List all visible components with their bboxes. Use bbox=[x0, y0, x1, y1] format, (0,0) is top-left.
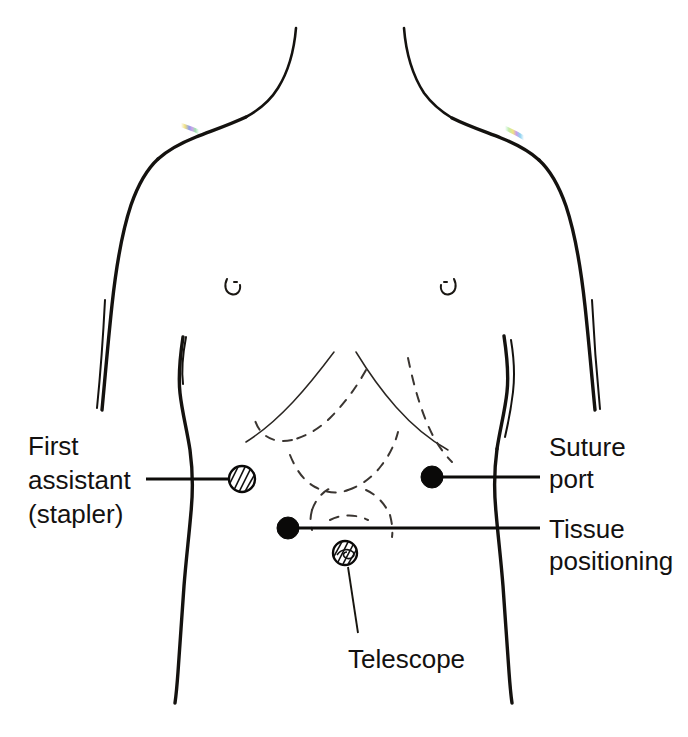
port-placement-diagram: First assistant (stapler) Suture port Ti… bbox=[0, 0, 688, 737]
viscera-outline-bottom-tail-right bbox=[390, 515, 392, 537]
right-flank-line bbox=[495, 449, 512, 703]
viscera-outline-upper-right bbox=[408, 358, 452, 462]
viscera-outline-upper-left bbox=[292, 370, 366, 440]
right-shoulder-line bbox=[452, 118, 539, 160]
label-telescope: Telescope bbox=[348, 644, 465, 674]
label-first-assistant-line3: (stapler) bbox=[28, 499, 123, 529]
label-tissue-positioning-line1: Tissue bbox=[549, 514, 625, 544]
port-marker-first-assistant[interactable] bbox=[228, 463, 258, 495]
viscera-outline-bottom-loop-right bbox=[366, 490, 390, 515]
label-first-assistant-line2: assistant bbox=[28, 465, 131, 495]
viscera-outline-center-bottom bbox=[330, 516, 368, 521]
left-shoulder-line bbox=[158, 117, 246, 159]
viscera-outline-bottom-loop-left bbox=[312, 487, 333, 510]
left-nipple-mark bbox=[225, 279, 240, 294]
port-marker-tissue-positioning[interactable] bbox=[277, 517, 299, 539]
right-nipple-mark bbox=[441, 279, 456, 294]
right-shoulder-chroma-fringe bbox=[505, 128, 524, 138]
right-arm-outer-line bbox=[539, 160, 595, 410]
label-first-assistant-line1: First bbox=[28, 431, 79, 461]
neck-left-line bbox=[246, 28, 296, 117]
viscera-outline-lower-left bbox=[290, 455, 348, 492]
neck-right-line bbox=[404, 28, 452, 118]
costal-margin-right bbox=[356, 352, 448, 450]
left-flank-line bbox=[175, 337, 192, 703]
label-suture-port-line1: Suture bbox=[549, 432, 626, 462]
leader-telescope bbox=[348, 567, 358, 633]
port-marker-telescope[interactable] bbox=[332, 538, 358, 566]
label-tissue-positioning-line2: positioning bbox=[549, 546, 673, 576]
port-marker-suture-port[interactable] bbox=[421, 466, 443, 488]
left-arm-outer-line bbox=[102, 159, 158, 410]
viscera-outline-lower-right bbox=[348, 432, 398, 490]
left-shoulder-chroma-fringe bbox=[181, 125, 199, 132]
label-suture-port-line2: port bbox=[549, 464, 595, 494]
anatomy-illustration: First assistant (stapler) Suture port Ti… bbox=[0, 0, 688, 737]
